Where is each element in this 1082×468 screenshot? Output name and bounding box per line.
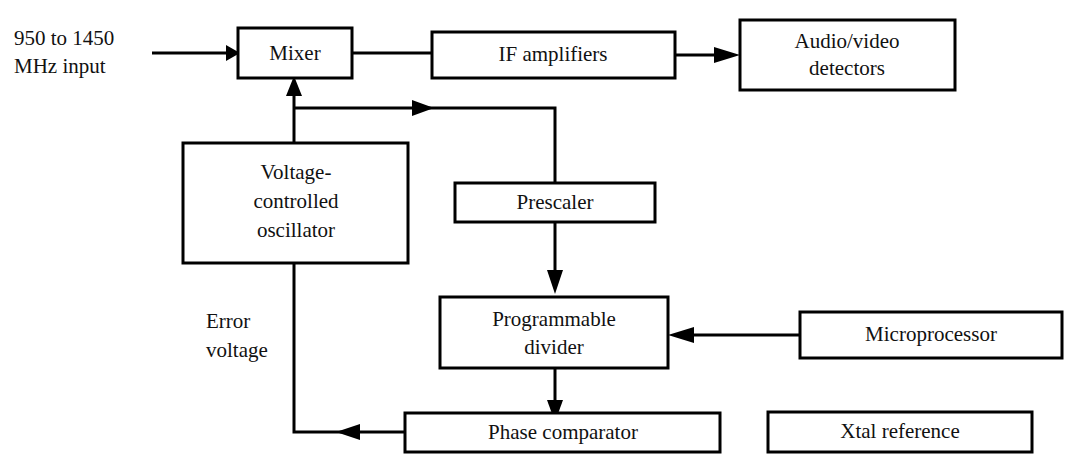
- connection-prescaler-to-programmable-divider: [547, 222, 563, 294]
- arrow-head-microprocessor-to-divider: [668, 327, 694, 343]
- connection-if-amplifiers-to-detectors: [675, 47, 740, 63]
- block-xtal-reference[interactable]: Xtal reference: [768, 412, 1032, 452]
- block-vco-label-line1: Voltage-: [261, 160, 332, 184]
- label-error-voltage-line2: voltage: [206, 338, 268, 362]
- block-phase-comparator-label: Phase comparator: [488, 420, 638, 444]
- block-mixer[interactable]: Mixer: [238, 28, 352, 78]
- arrow-head-vco-to-prescaler: [412, 100, 434, 116]
- label-error-voltage-line1: Error: [206, 309, 250, 333]
- block-programmable-divider[interactable]: Programmable divider: [440, 297, 668, 368]
- block-mixer-label: Mixer: [269, 41, 320, 65]
- block-microprocessor-label: Microprocessor: [865, 322, 997, 346]
- block-if-amplifiers-label: IF amplifiers: [498, 42, 607, 66]
- block-audio-video-detectors-label-line1: Audio/video: [795, 29, 900, 53]
- diagram-page: Mixer IF amplifiers Audio/video detector…: [0, 0, 1082, 468]
- label-input-signal: 950 to 1450 MHz input: [14, 26, 114, 78]
- arrow-head-phase-comparator-to-vco: [336, 424, 360, 440]
- block-phase-comparator[interactable]: Phase comparator: [405, 413, 720, 452]
- block-if-amplifiers[interactable]: IF amplifiers: [432, 32, 675, 78]
- block-microprocessor[interactable]: Microprocessor: [800, 312, 1062, 358]
- block-voltage-controlled-oscillator[interactable]: Voltage- controlled oscillator: [183, 143, 408, 263]
- connection-input-to-mixer: [152, 45, 240, 61]
- block-programmable-divider-label-line2: divider: [524, 335, 583, 359]
- arrow-head-if-to-detectors: [714, 47, 740, 63]
- block-diagram-canvas: Mixer IF amplifiers Audio/video detector…: [0, 0, 1082, 468]
- label-error-voltage: Error voltage: [206, 309, 268, 362]
- connection-phase-comparator-to-vco: [294, 263, 405, 440]
- block-programmable-divider-label-line1: Programmable: [492, 307, 616, 331]
- block-audio-video-detectors-label-line2: detectors: [809, 56, 885, 80]
- block-xtal-reference-label: Xtal reference: [840, 419, 960, 443]
- block-prescaler-label: Prescaler: [517, 190, 594, 214]
- label-input-signal-line2: MHz input: [14, 54, 106, 78]
- connection-microprocessor-to-programmable-divider: [668, 327, 800, 343]
- label-input-signal-line1: 950 to 1450: [14, 26, 114, 50]
- block-vco-label-line3: oscillator: [257, 218, 335, 242]
- block-audio-video-detectors[interactable]: Audio/video detectors: [740, 20, 955, 90]
- block-prescaler[interactable]: Prescaler: [455, 183, 655, 222]
- arrow-head-prescaler-to-divider: [547, 270, 563, 294]
- block-vco-label-line2: controlled: [253, 189, 339, 213]
